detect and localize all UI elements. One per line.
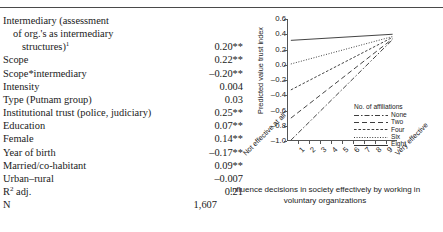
y-tick-label: 0.2 (256, 46, 286, 54)
table-row-value: 0.004 (183, 80, 243, 93)
table-row-label: Intensity (3, 80, 183, 93)
figure-root: Intermediary (assessmentof org.'s as int… (0, 0, 443, 232)
chart-legend: No. of affiliations NoneTwoFourSixEight (354, 103, 443, 148)
table-row: R2 adj.0.21 (3, 185, 243, 198)
table-row: of org.'s as intermediary (3, 27, 243, 40)
y-tick-label: –0.4 (256, 91, 286, 99)
x-tick-mark (298, 141, 299, 144)
x-tick-label: 4 (330, 145, 339, 154)
table-row: Intermediary (assessment (3, 14, 243, 27)
table-row-value (183, 14, 243, 27)
series-line-four (291, 37, 393, 90)
y-tick-label: 0.4 (256, 30, 286, 38)
x-tick-label: 1 (297, 145, 306, 154)
table-row-label: Married/co-habitant (3, 159, 183, 172)
legend-item-eight: Eight (354, 141, 443, 148)
y-tick-label: 0.0 (256, 61, 286, 69)
superscript-marker: 1 (66, 40, 70, 48)
table-row-label: Institutional trust (police, judiciary) (3, 106, 183, 119)
table-row-label: structures)1 (3, 40, 183, 53)
table-row: Year of birth–0.17** (3, 146, 243, 159)
regression-table-container: Intermediary (assessmentof org.'s as int… (3, 14, 243, 211)
x-tick-label: 2 (308, 145, 317, 154)
series-line-eight (291, 34, 393, 40)
x-tick-mark (342, 141, 343, 144)
x-tick-mark (320, 141, 321, 144)
table-row: N1,607 (3, 198, 243, 211)
table-row: Intensity0.004 (3, 80, 243, 93)
table-row-label: Urban–rural (3, 172, 183, 185)
table-row-label: Female (3, 132, 183, 145)
y-tick-mark (284, 141, 287, 142)
table-row: Education0.07** (3, 119, 243, 132)
table-row: Female0.14** (3, 132, 243, 145)
table-row-value (183, 27, 243, 40)
legend-label: Two (391, 119, 403, 126)
y-tick-label: 0.6 (256, 15, 286, 23)
x-axis-title: Influence decisions in society effective… (225, 184, 425, 207)
table-row-value: 0.09** (183, 159, 243, 172)
table-row: Institutional trust (police, judiciary)0… (3, 106, 243, 119)
table-row-value: –0.17** (183, 146, 243, 159)
table-row-value: 0.03 (183, 93, 243, 106)
x-tick-label: 5 (341, 145, 350, 154)
legend-label: Eight (391, 141, 406, 148)
table-row-label: Year of birth (3, 146, 183, 159)
table-row-label: Education (3, 119, 183, 132)
y-tick-label: –0.2 (256, 76, 286, 84)
table-row: Scope0.22** (3, 53, 243, 66)
table-row-label: R2 adj. (3, 185, 183, 198)
table-row-value: –0.20** (183, 67, 243, 80)
table-row-label: Scope (3, 53, 183, 66)
table-row-label: Type (Putnam group) (3, 93, 183, 106)
table-row-value: 0.20** (183, 40, 243, 53)
top-horizontal-rule (0, 7, 443, 8)
table-row-label: N (3, 198, 183, 211)
regression-table: Intermediary (assessmentof org.'s as int… (3, 14, 243, 211)
table-row: Urban–rural–0.007 (3, 172, 243, 185)
table-row-label: Scope*intermediary (3, 67, 183, 80)
table-row-value: 0.14** (183, 132, 243, 145)
table-row-label: of org.'s as intermediary (3, 27, 183, 40)
line-chart: Predicted value trust index 0.60.40.20.0… (243, 10, 443, 232)
table-row-value: 0.22** (183, 53, 243, 66)
table-row: Scope*intermediary–0.20** (3, 67, 243, 80)
table-row-label: Intermediary (assessment (3, 14, 183, 27)
table-row: Type (Putnam group)0.03 (3, 93, 243, 106)
table-row: Married/co-habitant0.09** (3, 159, 243, 172)
x-tick-mark (331, 141, 332, 144)
series-line-six (291, 37, 393, 64)
x-tick-label: 3 (319, 145, 328, 154)
x-tick-mark (309, 141, 310, 144)
legend-title: No. of affiliations (354, 103, 443, 110)
table-row-value: 0.07** (183, 119, 243, 132)
table-row-value: 0.25** (183, 106, 243, 119)
table-row: structures)10.20** (3, 40, 243, 53)
superscript-marker: 2 (10, 185, 14, 193)
